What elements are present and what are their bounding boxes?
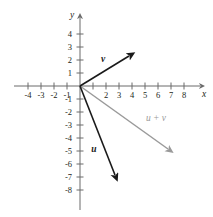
x-tick-label: 2 bbox=[104, 90, 108, 100]
y-tick-label: -7 bbox=[65, 172, 72, 182]
y-tick-label: -2 bbox=[65, 107, 72, 117]
x-axis-tick-labels: -4 -3 -2 -1 2 3 4 5 6 7 8 bbox=[24, 90, 186, 100]
axis-lines bbox=[14, 18, 200, 210]
y-tick-label: 1 bbox=[68, 68, 72, 78]
y-tick-label: -3 bbox=[65, 120, 72, 130]
y-tick-label: 3 bbox=[68, 42, 72, 52]
vector-label-u: u bbox=[91, 144, 96, 154]
y-axis-label: y bbox=[69, 10, 75, 20]
x-tick-label: 8 bbox=[182, 90, 186, 100]
y-tick-label: 2 bbox=[68, 55, 72, 65]
x-axis-label: x bbox=[201, 89, 207, 99]
x-tick-label: 7 bbox=[169, 90, 173, 100]
x-tick-label: -3 bbox=[37, 90, 44, 100]
y-tick-label: 4 bbox=[68, 29, 73, 39]
vector-addition-figure: -4 -3 -2 -1 2 3 4 5 6 7 8 4 3 2 1 -1 -2 … bbox=[0, 0, 213, 217]
x-tick-label: -2 bbox=[50, 90, 57, 100]
coordinate-plot: -4 -3 -2 -1 2 3 4 5 6 7 8 4 3 2 1 -1 -2 … bbox=[0, 0, 213, 217]
x-tick-label: 5 bbox=[143, 90, 147, 100]
x-tick-label: -4 bbox=[24, 90, 32, 100]
y-tick-label: -6 bbox=[65, 159, 72, 169]
y-tick-label: -4 bbox=[65, 133, 73, 143]
y-tick-label: -8 bbox=[65, 185, 72, 195]
y-axis-tick-labels: 4 3 2 1 -1 -2 -3 -4 -5 -6 -7 -8 bbox=[65, 29, 73, 195]
vector-label-v: v bbox=[101, 54, 106, 64]
x-tick-label: 4 bbox=[130, 90, 135, 100]
x-tick-label: 6 bbox=[156, 90, 160, 100]
y-tick-label: -5 bbox=[65, 146, 72, 156]
x-tick-label: 3 bbox=[117, 90, 121, 100]
y-tick-label: -1 bbox=[65, 94, 72, 104]
vector-label-u-plus-v: u + v bbox=[146, 113, 167, 123]
